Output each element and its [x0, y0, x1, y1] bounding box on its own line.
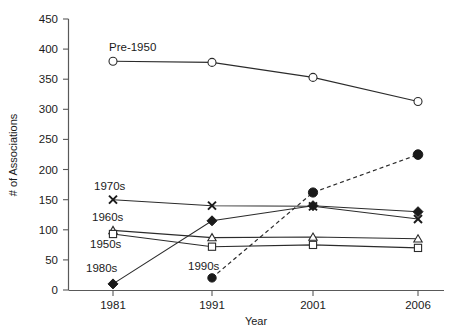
marker-1950s-1991	[208, 243, 215, 250]
series-1990s: 1990s	[188, 150, 423, 282]
marker-1980s-1981	[108, 279, 118, 289]
y-tick-label-250: 250	[39, 133, 58, 145]
marker-pre-1950-2006	[414, 98, 422, 106]
marker-1950s-2006	[414, 244, 421, 251]
y-tick-label-200: 200	[39, 164, 58, 176]
y-tick-label-400: 400	[39, 43, 58, 55]
y-axis-ticks	[63, 19, 69, 290]
series-label-1980s: 1980s	[86, 262, 118, 274]
y-tick-label-50: 50	[45, 254, 58, 266]
x-tick-label-2006: 2006	[405, 299, 431, 311]
y-tick-label-150: 150	[39, 194, 58, 206]
series-pre-1950: Pre-1950	[109, 41, 422, 106]
series-label-1960s: 1960s	[92, 211, 124, 223]
x-tick-label-1991: 1991	[199, 299, 225, 311]
series-1980s-line	[113, 206, 418, 284]
series-1970s: 1970s	[94, 180, 422, 223]
marker-1950s-1981	[109, 230, 116, 237]
chart-container: 0 50 100 150 200 250 300 350 400 450 # o…	[0, 0, 449, 334]
y-tick-label-0: 0	[52, 284, 58, 296]
y-tick-label-100: 100	[39, 224, 58, 236]
y-tick-label-350: 350	[39, 73, 58, 85]
line-chart: 0 50 100 150 200 250 300 350 400 450 # o…	[0, 0, 449, 334]
x-axis-title: Year	[245, 315, 268, 327]
y-tick-label-300: 300	[39, 103, 58, 115]
y-axis-title: # of Associations	[7, 113, 19, 196]
series-label-pre-1950: Pre-1950	[109, 41, 156, 53]
series-pre-1950-line	[113, 61, 418, 101]
y-axis: 0 50 100 150 200 250 300 350 400 450 # o…	[7, 13, 69, 296]
x-axis-tick-labels: 1981 1991 2001 2006	[100, 299, 431, 311]
marker-pre-1950-2001	[309, 73, 317, 81]
x-tick-label-2001: 2001	[300, 299, 326, 311]
series-label-1950s: 1950s	[90, 238, 122, 250]
y-axis-tick-labels: 0 50 100 150 200 250 300 350 400 450	[39, 13, 58, 296]
x-axis: 1981 1991 2001 2006 Year	[69, 291, 445, 328]
series-label-1990s: 1990s	[188, 260, 220, 272]
marker-1990s-1991	[208, 274, 216, 282]
x-axis-ticks	[113, 291, 418, 297]
marker-1950s-2001	[309, 241, 316, 248]
marker-1990s-2001	[308, 188, 317, 197]
x-tick-label-1981: 1981	[100, 299, 126, 311]
marker-1980s-1991	[207, 216, 217, 226]
series-1960s-line	[113, 230, 418, 238]
marker-pre-1950-1991	[208, 58, 216, 66]
marker-pre-1950-1981	[109, 57, 117, 65]
marker-1990s-2006	[413, 150, 423, 160]
series-label-1970s: 1970s	[94, 180, 126, 192]
y-tick-label-450: 450	[39, 13, 58, 25]
series-1950s-line	[113, 234, 418, 248]
